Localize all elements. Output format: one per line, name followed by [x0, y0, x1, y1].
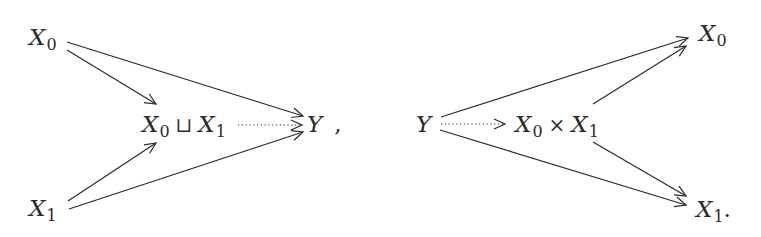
var-x: X	[29, 195, 45, 221]
subscript: 1	[713, 207, 723, 226]
var-y: Y	[307, 111, 322, 137]
arrow-y-to-x0	[441, 38, 688, 117]
node-coproduct: X0⊔X1	[142, 113, 226, 140]
var-x: X	[515, 111, 531, 137]
period: .	[724, 196, 731, 222]
subscript: 0	[532, 122, 542, 141]
subscript: 1	[216, 122, 226, 141]
subscript: 0	[159, 122, 169, 141]
node-x1-right: X1.	[696, 198, 731, 225]
arrow-x1-to-coproduct	[68, 143, 156, 201]
var-y: Y	[416, 111, 431, 137]
node-product: X0×X1	[515, 113, 599, 140]
node-y-right: Y	[416, 113, 431, 136]
coproduct-operator: ⊔	[176, 113, 193, 137]
subscript: 0	[46, 35, 56, 54]
arrow-product-to-x0	[593, 46, 686, 104]
var-x: X	[29, 24, 45, 50]
subscript: 0	[716, 31, 726, 50]
var-x: X	[142, 111, 158, 137]
var-x: X	[699, 20, 715, 46]
commutative-diagrams	[0, 0, 761, 237]
node-y-left: Y,	[307, 113, 342, 136]
arrow-y-to-x1	[440, 130, 686, 205]
var-x: X	[198, 111, 214, 137]
product-operator: ×	[549, 113, 566, 137]
arrow-x0-to-y	[67, 42, 303, 116]
node-x1-left: X1	[29, 197, 57, 224]
subscript: 1	[46, 206, 56, 225]
var-x: X	[696, 196, 712, 222]
var-x: X	[571, 111, 587, 137]
node-x0-right: X0	[699, 22, 727, 49]
arrow-x0-to-coproduct	[67, 50, 156, 104]
arrow-product-to-x1	[593, 142, 686, 196]
node-x0-left: X0	[29, 26, 57, 53]
comma: ,	[334, 111, 341, 137]
subscript: 1	[589, 122, 599, 141]
arrow-x1-to-y	[69, 132, 303, 209]
